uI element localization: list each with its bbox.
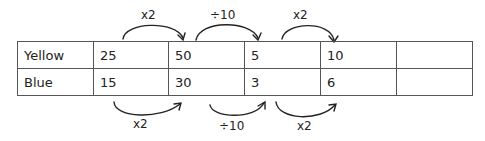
- table-cell: 50: [169, 42, 245, 69]
- table-cell: 6: [321, 69, 397, 96]
- arrow-top-3: [282, 26, 334, 40]
- arrow-bottom-3: [276, 102, 335, 117]
- ratio-table: Yellow 25 50 5 10 Blue 15 30 3 6: [17, 41, 473, 96]
- table-cell: 30: [169, 69, 245, 96]
- annotation-top-1: x2: [141, 8, 156, 22]
- annotation-top-2: ÷10: [210, 8, 235, 22]
- row-label: Blue: [18, 69, 94, 96]
- table-cell-empty: [397, 69, 473, 96]
- arrow-bottom-1: [114, 102, 180, 115]
- table-cell: 10: [321, 42, 397, 69]
- arrow-top-2: [196, 25, 258, 40]
- annotation-top-3: x2: [293, 8, 308, 22]
- table-cell: 3: [245, 69, 321, 96]
- table-row-yellow: Yellow 25 50 5 10: [18, 42, 473, 69]
- annotation-bottom-3: x2: [297, 119, 312, 133]
- arrow-bottom-2: [210, 103, 264, 115]
- annotation-bottom-1: x2: [133, 117, 148, 131]
- row-label: Yellow: [18, 42, 94, 69]
- table-row-blue: Blue 15 30 3 6: [18, 69, 473, 96]
- table-cell: 25: [94, 42, 169, 69]
- table-cell-empty: [397, 42, 473, 69]
- annotation-bottom-2: ÷10: [219, 119, 244, 133]
- table-cell: 15: [94, 69, 169, 96]
- arrow-top-1: [123, 25, 183, 39]
- table-cell: 5: [245, 42, 321, 69]
